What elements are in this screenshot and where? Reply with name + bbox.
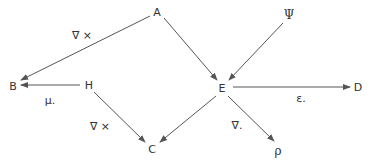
node-e: E (219, 83, 226, 94)
edge-label-curl-a-b: ∇ × (72, 30, 92, 41)
edge-psi-to-e (229, 23, 283, 80)
edge-e-to-c (160, 96, 216, 142)
edge-a-to-e (164, 18, 217, 80)
node-rho: ρ (274, 145, 281, 157)
node-b: B (9, 81, 17, 92)
edge-label-eps-e-d: ε. (296, 93, 305, 104)
edge-label-div-e-rho: ∇. (232, 120, 243, 131)
diagram-canvas: A Ψ B H E D C ρ ∇ × μ. ∇ × ∇. ε. (0, 0, 372, 166)
node-d: D (354, 82, 362, 93)
node-psi: Ψ (284, 9, 295, 21)
edges-layer (0, 0, 372, 166)
edge-label-mu-h-b: μ. (45, 95, 56, 106)
node-c: C (148, 144, 156, 155)
node-a: A (153, 7, 161, 18)
edge-label-curl-h-c: ∇ × (90, 121, 110, 132)
edge-a-to-b (21, 16, 150, 80)
node-h: H (85, 80, 93, 91)
edge-h-to-c (94, 92, 145, 142)
